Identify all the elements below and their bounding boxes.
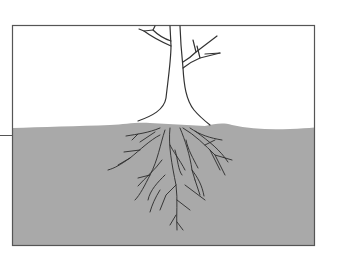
soil-area: [13, 123, 315, 246]
tree-root-diagram: [0, 0, 341, 259]
